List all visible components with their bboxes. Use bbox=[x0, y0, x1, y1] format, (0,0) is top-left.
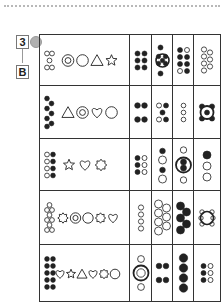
empty-dot bbox=[50, 218, 55, 223]
empty-dot bbox=[159, 175, 167, 183]
answer-svg bbox=[194, 86, 220, 138]
filled-dot bbox=[185, 55, 190, 60]
prompt-cell bbox=[40, 245, 130, 301]
empty-dot bbox=[207, 64, 212, 69]
empty-dot bbox=[203, 173, 211, 181]
answer-figure bbox=[181, 103, 186, 122]
empty-dot bbox=[47, 58, 52, 63]
empty-dot bbox=[155, 209, 163, 217]
empty-dot bbox=[138, 256, 145, 263]
empty-dot bbox=[50, 51, 55, 56]
filled-dot bbox=[135, 58, 140, 63]
answer-cell[interactable] bbox=[194, 139, 220, 190]
answer-cell[interactable] bbox=[173, 86, 194, 138]
empty-dot bbox=[138, 284, 145, 291]
circle-shape bbox=[83, 213, 93, 223]
triangle-shape bbox=[77, 269, 87, 278]
badge-connector-line bbox=[22, 49, 23, 63]
filled-dot bbox=[45, 124, 50, 129]
filled-dot bbox=[160, 167, 166, 173]
filled-dot bbox=[156, 263, 162, 269]
filled-dot bbox=[178, 55, 183, 60]
triangle-shape bbox=[62, 107, 74, 118]
filled-dot bbox=[45, 116, 50, 121]
circle-shape bbox=[110, 269, 120, 279]
filled-dot bbox=[142, 117, 148, 123]
filled-dot bbox=[201, 278, 206, 283]
answer-cell[interactable] bbox=[152, 139, 173, 190]
answer-figure bbox=[199, 104, 214, 121]
filled-dot bbox=[135, 65, 140, 70]
empty-dot bbox=[50, 208, 55, 213]
answer-cell[interactable] bbox=[173, 245, 194, 301]
answer-cell[interactable] bbox=[130, 35, 152, 85]
filled-dot bbox=[163, 277, 169, 283]
empty-dot bbox=[142, 156, 147, 161]
filled-dot bbox=[51, 152, 56, 157]
answer-cell[interactable] bbox=[152, 245, 173, 301]
answer-cell[interactable] bbox=[173, 139, 194, 190]
answer-cell[interactable] bbox=[130, 86, 152, 138]
answer-figure bbox=[156, 45, 169, 76]
exercise-row bbox=[40, 86, 220, 139]
filled-dot bbox=[51, 285, 56, 290]
filled-dot bbox=[156, 277, 162, 283]
prompt-cell bbox=[40, 191, 130, 244]
answer-figure bbox=[157, 103, 169, 122]
heart-shape bbox=[89, 271, 97, 279]
filled-dot bbox=[179, 284, 187, 292]
filled-dot bbox=[135, 170, 140, 175]
answer-cell[interactable] bbox=[194, 86, 220, 138]
answer-cell[interactable] bbox=[173, 191, 194, 244]
prompt-figure bbox=[40, 245, 129, 301]
empty-dot bbox=[185, 48, 190, 53]
answer-svg bbox=[130, 139, 151, 190]
filled-dot bbox=[45, 106, 50, 111]
answer-cell[interactable] bbox=[194, 245, 220, 301]
answer-cell[interactable] bbox=[173, 35, 194, 85]
answer-cell[interactable] bbox=[152, 35, 173, 85]
answer-svg bbox=[194, 191, 220, 244]
filled-dot bbox=[160, 148, 166, 154]
exercise-row bbox=[40, 245, 220, 301]
empty-dot bbox=[201, 68, 206, 73]
filled-dot bbox=[45, 285, 50, 290]
answer-cell[interactable] bbox=[130, 191, 152, 244]
answer-svg bbox=[152, 191, 172, 244]
empty-dot bbox=[201, 54, 206, 59]
filled-dot bbox=[135, 103, 141, 109]
filled-dot bbox=[201, 264, 206, 269]
prompt-figure bbox=[40, 35, 129, 85]
double-circle-shape bbox=[70, 213, 80, 223]
counting-cluster bbox=[45, 51, 55, 70]
answer-cell[interactable] bbox=[194, 35, 220, 85]
answer-cell[interactable] bbox=[152, 191, 173, 244]
filled-dot bbox=[142, 51, 147, 56]
filled-dot bbox=[142, 103, 148, 109]
answer-cell[interactable] bbox=[130, 245, 152, 301]
filled-dot bbox=[160, 110, 165, 115]
empty-dot bbox=[138, 226, 143, 231]
empty-dot bbox=[47, 213, 52, 218]
empty-dot bbox=[203, 162, 211, 170]
filled-dot bbox=[45, 96, 50, 101]
empty-dot bbox=[181, 110, 186, 115]
counting-cluster bbox=[45, 152, 56, 178]
answer-cell[interactable] bbox=[194, 191, 220, 244]
sun-shape bbox=[95, 159, 107, 171]
filled-dot bbox=[45, 278, 50, 283]
filled-dot bbox=[156, 61, 160, 65]
answer-svg bbox=[152, 245, 172, 301]
prompt-cell bbox=[40, 35, 130, 85]
triangle-shape bbox=[91, 55, 103, 66]
answer-cell[interactable] bbox=[130, 139, 152, 190]
empty-dot bbox=[208, 271, 213, 276]
filled-dot bbox=[45, 257, 50, 262]
answer-svg bbox=[173, 139, 193, 190]
empty-dot bbox=[180, 147, 186, 153]
answer-cell[interactable] bbox=[152, 86, 173, 138]
filled-dot bbox=[51, 271, 56, 276]
star-shape bbox=[63, 159, 74, 169]
answer-figure bbox=[138, 205, 143, 231]
filled-dot bbox=[49, 121, 54, 126]
